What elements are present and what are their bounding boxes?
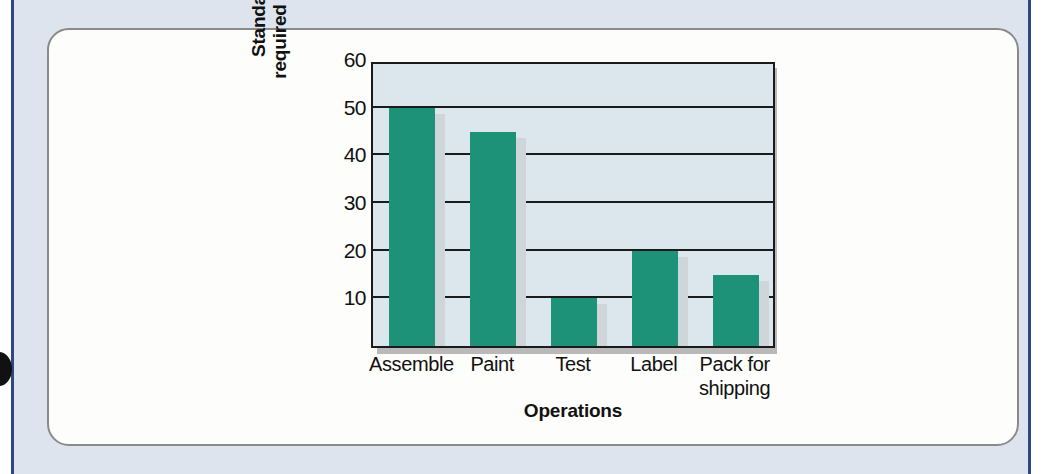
x-tick-label-line: shipping: [680, 376, 789, 400]
bar: [389, 108, 435, 346]
bar-series: [373, 64, 773, 346]
bar: [632, 251, 678, 346]
y-axis-title-line-1: Standard time: [248, 0, 269, 110]
x-axis-title: Operations: [371, 400, 775, 422]
y-tick-label-60: 60: [322, 48, 366, 72]
bar: [551, 298, 597, 346]
x-tick-label-4: Pack forshipping: [680, 352, 789, 400]
bar-group: [632, 251, 688, 346]
bar-shadow: [435, 114, 445, 346]
bar-group: [713, 275, 769, 347]
x-tick-label-line: Pack for: [680, 352, 789, 376]
bar-group: [389, 108, 445, 346]
bar-group: [470, 132, 526, 347]
page-canvas: Standard time required (seconds) 1020304…: [0, 0, 1058, 474]
y-tick-label-10: 10: [322, 286, 366, 310]
bar-group: [551, 298, 607, 346]
y-tick-label-20: 20: [322, 239, 366, 263]
plot-area: [371, 62, 775, 348]
y-axis-title-line-2: required (seconds): [269, 0, 290, 110]
bar-chart-figure: Standard time required (seconds) 1020304…: [0, 0, 1058, 474]
y-tick-label-40: 40: [322, 143, 366, 167]
y-axis-title: Standard time required (seconds): [248, 0, 288, 110]
bar-shadow: [516, 138, 526, 347]
bar: [470, 132, 516, 347]
bar-shadow: [597, 304, 607, 346]
bar-shadow: [759, 281, 769, 347]
y-axis-tick-labels: 102030405060: [322, 60, 366, 346]
y-tick-label-30: 30: [322, 191, 366, 215]
bar: [713, 275, 759, 347]
bar-shadow: [678, 257, 688, 346]
y-tick-label-50: 50: [322, 96, 366, 120]
